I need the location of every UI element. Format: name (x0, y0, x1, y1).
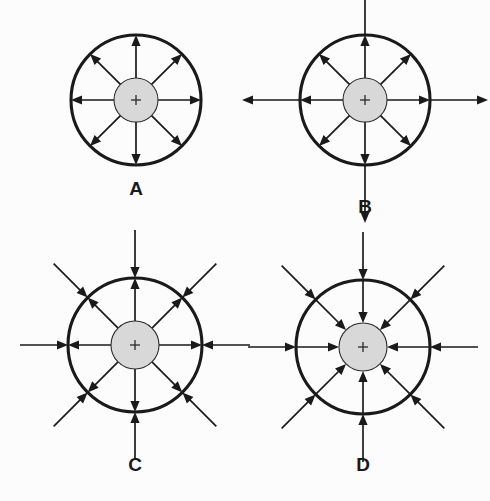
field-arrow-inside-outward (131, 35, 140, 78)
panel-b: B (242, 0, 488, 223)
field-arrow-outside-inward (430, 342, 478, 351)
field-arrow-inside-outward (152, 54, 182, 84)
arrow-head (190, 95, 201, 104)
field-arrow-inside-inward (316, 300, 346, 330)
field-arrow-outside-inward (358, 232, 367, 280)
panel-label-b: B (358, 196, 372, 217)
field-arrow-outside-inward (282, 394, 316, 428)
field-arrow-inside-outward (381, 54, 411, 84)
arrow-head (285, 342, 296, 351)
arrow-shaft (152, 362, 176, 386)
arrow-shaft (416, 266, 444, 294)
field-arrow-inside-inward (380, 300, 410, 330)
arrow-head (68, 340, 79, 349)
field-arrow-outside-outward (430, 95, 488, 104)
arrow-head (360, 154, 369, 165)
arrow-head (242, 95, 253, 104)
arrow-shaft (152, 116, 176, 140)
field-arrow-outside-inward (20, 340, 68, 349)
arrow-shaft (282, 400, 310, 428)
arrow-shaft (94, 362, 118, 386)
arrow-shaft (381, 60, 405, 84)
arrow-shaft (152, 304, 176, 328)
field-arrow-inside-outward (387, 95, 430, 104)
field-arrow-outside-inward (202, 340, 250, 349)
arrow-head (419, 95, 430, 104)
arrow-head (57, 340, 68, 349)
arrow-head (358, 269, 367, 280)
arrow-shaft (188, 398, 216, 426)
arrow-head (131, 35, 140, 46)
field-arrow-inside-outward (360, 122, 369, 165)
arrow-shaft (316, 370, 340, 394)
arrow-shaft (316, 300, 340, 324)
field-arrow-inside-inward (358, 371, 367, 414)
field-arrow-outside-inward (248, 342, 296, 351)
field-arrow-inside-outward (71, 95, 114, 104)
field-arrow-inside-outward (360, 35, 369, 78)
arrow-head (130, 278, 139, 289)
field-arrow-inside-outward (319, 116, 349, 146)
field-arrow-inside-outward (152, 362, 182, 392)
field-arrow-inside-outward (300, 95, 343, 104)
arrow-head (477, 95, 488, 104)
field-arrow-inside-outward (90, 54, 120, 84)
field-arrow-inside-outward (319, 54, 349, 84)
field-arrow-inside-outward (90, 116, 120, 146)
panel-label-a: A (129, 178, 143, 199)
field-arrow-outside-inward (182, 392, 216, 426)
field-arrow-inside-outward (152, 298, 182, 328)
field-arrow-outside-inward (130, 412, 139, 460)
physics-field-diagram: ABCD (0, 0, 490, 501)
arrow-head (358, 371, 367, 382)
arrow-shaft (54, 398, 82, 426)
arrow-head (387, 342, 398, 351)
field-arrow-inside-inward (358, 280, 367, 323)
field-arrow-inside-inward (387, 342, 430, 351)
arrow-head (300, 95, 311, 104)
arrow-head (130, 412, 139, 423)
panel-d: D (248, 232, 478, 475)
field-arrow-outside-inward (410, 394, 444, 428)
arrow-shaft (325, 60, 349, 84)
field-arrow-inside-inward (380, 364, 410, 394)
field-arrow-inside-outward (68, 340, 111, 349)
arrow-head (130, 401, 139, 412)
arrow-head (71, 95, 82, 104)
arrow-shaft (188, 264, 216, 292)
arrow-head (202, 340, 213, 349)
field-arrow-inside-inward (316, 364, 346, 394)
arrow-shaft (54, 264, 82, 292)
figure-sheet: ABCD (0, 0, 490, 501)
field-arrow-outside-inward (282, 266, 316, 300)
panel-label-c: C (128, 454, 142, 475)
arrow-head (130, 267, 139, 278)
field-arrow-outside-inward (182, 264, 216, 298)
field-arrow-outside-inward (410, 266, 444, 300)
arrow-shaft (381, 116, 405, 140)
arrow-shaft (386, 370, 410, 394)
field-arrow-outside-inward (54, 392, 88, 426)
arrow-shaft (152, 60, 176, 84)
field-arrow-outside-outward (360, 0, 369, 35)
arrow-head (430, 342, 441, 351)
arrow-head (360, 35, 369, 46)
panel-c: C (20, 230, 250, 475)
arrow-head (328, 342, 339, 351)
field-arrow-inside-outward (158, 95, 201, 104)
arrow-shaft (325, 116, 349, 140)
field-arrow-inside-outward (130, 278, 139, 321)
field-arrow-inside-outward (152, 116, 182, 146)
arrow-head (131, 154, 140, 165)
panel-a: A (71, 35, 201, 199)
arrow-head (358, 414, 367, 425)
arrow-head (191, 340, 202, 349)
field-arrow-outside-outward (242, 95, 300, 104)
field-arrow-outside-inward (54, 264, 88, 298)
field-arrow-inside-inward (296, 342, 339, 351)
field-arrow-inside-outward (88, 298, 118, 328)
arrow-shaft (94, 304, 118, 328)
field-arrow-inside-outward (131, 122, 140, 165)
panel-label-d: D (356, 454, 370, 475)
field-arrow-inside-outward (130, 369, 139, 412)
